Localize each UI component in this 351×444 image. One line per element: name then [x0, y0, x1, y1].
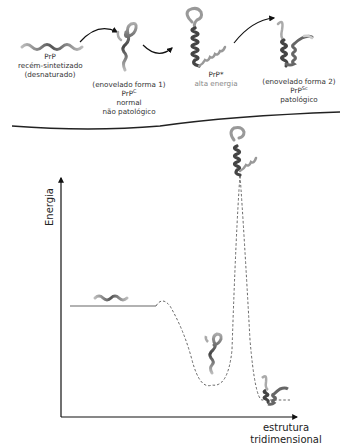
stage2-label: (enovelado forma 1) PrPC normal não pato…: [86, 80, 172, 116]
x-axis-label: estrutura tridimensional: [246, 422, 326, 444]
stage2-prp-text: PrP: [122, 89, 134, 98]
stage2-nonpathologic: não patológico: [86, 107, 172, 116]
stage4-label: (enovelado forma 2) PrPSc patológico: [256, 77, 342, 104]
stage2-normal: normal: [86, 98, 172, 107]
arrow-3: [234, 18, 274, 43]
x-axis-label-line2: tridimensional: [246, 434, 326, 444]
stage4-pathologic: patológico: [256, 95, 342, 104]
protein-folded-form1-icon: [118, 24, 136, 71]
protein-high-energy-icon: [187, 8, 225, 66]
stage3-label: PrP* alta energia: [186, 70, 246, 88]
protein-unfolded-icon: [22, 45, 82, 50]
stage1-label: PrP recém-sintetizado (desnaturado): [18, 52, 82, 79]
energy-curve-dashed: [156, 175, 290, 400]
stage4-form: (enovelado forma 2): [256, 77, 342, 86]
stage1-state: (desnaturado): [18, 70, 82, 79]
stage1-name: PrP: [18, 52, 82, 61]
stage1-desc: recém-sintetizado: [18, 61, 82, 70]
stage3-prp: PrP*: [186, 70, 246, 79]
stage4-prp-sup: Sc: [302, 85, 308, 91]
stage4-prp-text: PrP: [290, 86, 302, 95]
graph-protein-high-energy-icon: [231, 128, 256, 176]
stage3-high-energy: alta energia: [186, 79, 246, 88]
stage2-prp-sup: C: [133, 88, 137, 94]
graph-protein-unfolded-icon: [95, 296, 127, 300]
y-axis-label: Energia: [44, 188, 55, 226]
stage2-form: (enovelado forma 1): [86, 80, 172, 89]
arrow-1: [80, 29, 117, 42]
graph-protein-form1-icon: [206, 334, 221, 373]
x-axis-label-line1: estrutura: [246, 422, 326, 434]
stage4-prp: PrPSc: [256, 86, 342, 95]
arrow-2: [143, 45, 172, 53]
section-divider: [12, 112, 340, 129]
protein-folded-form2-icon: [278, 22, 312, 66]
stage2-prp: PrPC: [86, 89, 172, 98]
